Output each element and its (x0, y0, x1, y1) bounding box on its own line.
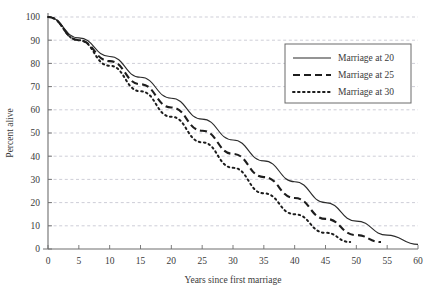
x-tick-label-45: 45 (321, 256, 331, 266)
x-tick-label-15: 15 (136, 256, 146, 266)
x-tick-label-0: 0 (46, 256, 51, 266)
chart-container: 051015202530354045505560 010203040506070… (0, 0, 431, 294)
y-tick-label-70: 70 (31, 82, 41, 92)
x-axis-ticks (48, 245, 418, 249)
y-tick-label-30: 30 (31, 175, 41, 185)
y-tick-label-90: 90 (31, 36, 41, 46)
legend-label-2: Marriage at 25 (338, 70, 394, 80)
y-tick-label-100: 100 (26, 12, 41, 22)
y-tick-label-40: 40 (31, 152, 41, 162)
y-tick-label-60: 60 (31, 105, 41, 115)
y-axis-ticks (48, 17, 52, 249)
x-tick-label-20: 20 (167, 256, 177, 266)
legend-label-3: Marriage at 30 (338, 87, 394, 97)
legend-label-1: Marriage at 20 (338, 53, 394, 63)
x-axis-title: Years since first marriage (185, 275, 282, 285)
x-axis-tick-labels: 051015202530354045505560 (46, 256, 423, 266)
y-tick-label-80: 80 (31, 59, 41, 69)
y-tick-label-10: 10 (31, 221, 41, 231)
y-tick-label-0: 0 (35, 244, 40, 254)
x-tick-label-30: 30 (228, 256, 238, 266)
x-tick-label-55: 55 (382, 256, 392, 266)
x-tick-label-5: 5 (76, 256, 81, 266)
x-tick-label-60: 60 (413, 256, 423, 266)
x-tick-label-25: 25 (197, 256, 207, 266)
x-tick-label-10: 10 (105, 256, 115, 266)
y-axis-tick-labels: 0102030405060708090100 (26, 12, 41, 254)
y-tick-label-50: 50 (31, 128, 41, 138)
y-tick-label-20: 20 (31, 198, 41, 208)
chart-legend: Marriage at 20Marriage at 25Marriage at … (285, 44, 411, 103)
x-tick-label-50: 50 (352, 256, 362, 266)
x-tick-label-35: 35 (259, 256, 269, 266)
survival-curve-chart: 051015202530354045505560 010203040506070… (0, 0, 431, 294)
x-tick-label-40: 40 (290, 256, 300, 266)
y-axis-title: Percent alive (5, 108, 15, 157)
